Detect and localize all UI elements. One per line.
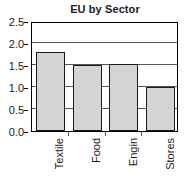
gridline — [32, 42, 177, 43]
y-tick-label: 0.5 — [9, 105, 24, 116]
bar-food — [73, 65, 102, 131]
bar-textile — [36, 52, 65, 131]
chart-title: EU by Sector — [30, 2, 180, 16]
y-tick-mark — [24, 22, 28, 23]
y-tick-label: 1.0 — [9, 83, 24, 94]
bar-engin — [109, 64, 138, 131]
bar-stores — [146, 87, 175, 131]
y-tick-label: 1.5 — [9, 61, 24, 72]
y-tick-mark — [24, 110, 28, 111]
plot-area — [31, 22, 178, 132]
x-tick-label-textile: Textile — [54, 138, 65, 169]
x-tick-label-engin: Engin — [128, 138, 139, 166]
x-tick-label-food: Food — [91, 138, 102, 163]
y-tick-label: 2.0 — [9, 39, 24, 50]
y-tick-mark — [24, 66, 28, 67]
x-tick-label-stores: Stores — [165, 138, 176, 170]
bar-chart: EU by Sector 0.00.51.01.52.02.5 TextileF… — [0, 0, 191, 187]
x-tick-mark — [105, 132, 106, 136]
y-tick-label: 2.5 — [9, 17, 24, 28]
x-tick-mark — [68, 132, 69, 136]
y-tick-mark — [24, 88, 28, 89]
y-tick-mark — [24, 44, 28, 45]
y-axis: 0.00.51.01.52.02.5 — [0, 22, 28, 132]
x-tick-mark — [141, 132, 142, 136]
y-tick-label: 0.0 — [9, 127, 24, 138]
y-tick-mark — [24, 132, 28, 133]
